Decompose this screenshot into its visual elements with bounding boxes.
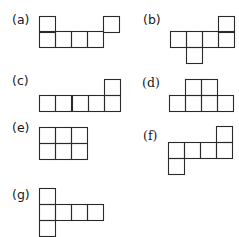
square-cell <box>56 205 72 221</box>
square-cell <box>40 205 56 221</box>
net-f <box>169 127 233 175</box>
square-cell <box>201 143 217 159</box>
square-cell <box>219 32 235 48</box>
square-cell <box>40 144 56 160</box>
square-cell <box>104 17 120 33</box>
square-cell <box>72 144 88 160</box>
net-a <box>40 17 120 48</box>
square-cell <box>217 143 233 159</box>
square-cell <box>202 96 218 112</box>
square-cell <box>88 205 104 221</box>
square-cell <box>56 96 72 112</box>
square-cell <box>40 96 56 112</box>
square-cell <box>89 96 105 112</box>
square-cell <box>203 32 219 48</box>
square-cell <box>56 32 72 48</box>
square-cell <box>72 205 88 221</box>
square-cell <box>105 96 121 112</box>
square-cell <box>219 17 235 33</box>
square-cell <box>187 32 203 48</box>
net-d <box>170 80 234 112</box>
square-cell <box>202 80 218 96</box>
net-e <box>40 128 88 160</box>
square-cell <box>56 128 72 144</box>
square-cell <box>169 143 185 159</box>
square-cell <box>170 96 186 112</box>
net-b <box>171 17 235 64</box>
square-cell <box>40 189 56 205</box>
square-cell <box>40 32 56 48</box>
cube-net-diagrams <box>0 0 239 237</box>
net-g <box>40 189 104 237</box>
square-cell <box>72 32 88 48</box>
square-cell <box>187 48 203 64</box>
square-cell <box>56 144 72 160</box>
square-cell <box>169 159 185 175</box>
square-cell <box>40 17 56 33</box>
square-cell <box>40 221 56 237</box>
square-cell <box>218 96 234 112</box>
square-cell <box>73 96 89 112</box>
square-cell <box>186 80 202 96</box>
net-c <box>40 80 121 112</box>
square-cell <box>171 32 187 48</box>
square-cell <box>72 128 88 144</box>
square-cell <box>40 128 56 144</box>
square-cell <box>185 143 201 159</box>
square-cell <box>105 80 121 96</box>
square-cell <box>186 96 202 112</box>
square-cell <box>217 127 233 143</box>
square-cell <box>88 32 104 48</box>
